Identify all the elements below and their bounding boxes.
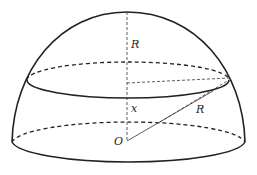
label-top-radius: R [130,38,139,51]
base-ellipse-front [12,142,245,162]
slant-radius-dashed [160,80,229,122]
section-ellipse-back [27,62,229,80]
label-slant-radius: R [195,103,204,116]
base-ellipse-back [12,122,245,142]
section-radius [127,78,229,83]
label-height: x [131,102,138,115]
hemisphere-diagram: R x R O [0,0,257,175]
label-origin: O [114,135,123,148]
